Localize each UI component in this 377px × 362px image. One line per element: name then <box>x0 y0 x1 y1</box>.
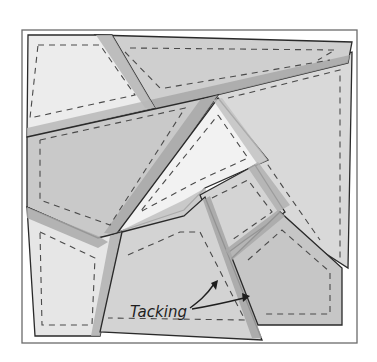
tacking-label: Tacking <box>130 303 187 321</box>
quilt-diagram: Tacking <box>0 0 377 362</box>
